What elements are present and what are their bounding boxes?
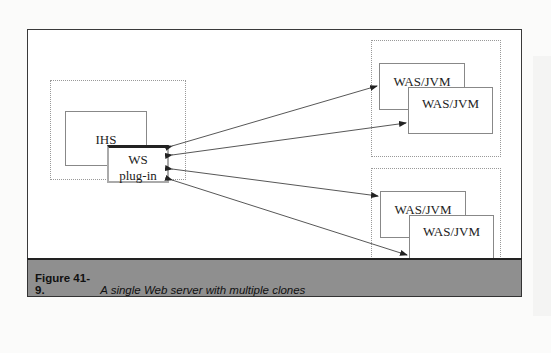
figure-number: Figure 41-9. <box>35 272 97 296</box>
connection-arrows <box>0 0 551 353</box>
arrow-bottom-2 <box>172 180 407 255</box>
figure-caption: Figure 41-9. A single Web server with mu… <box>27 258 522 297</box>
arrow-top-1 <box>172 86 377 146</box>
arrow-bottom-1 <box>172 169 378 196</box>
figure-caption-text: A single Web server with multiple clones <box>100 284 305 296</box>
arrow-top-2 <box>172 123 406 155</box>
